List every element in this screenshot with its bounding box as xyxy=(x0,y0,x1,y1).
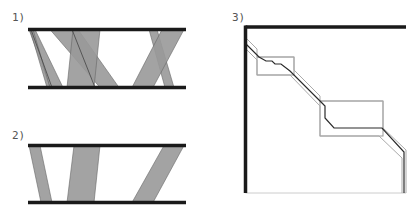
panel-1-synteny xyxy=(28,30,186,88)
band-lower-line xyxy=(246,49,402,193)
synteny-band xyxy=(67,146,100,203)
synteny-band xyxy=(132,146,184,203)
alignment-path xyxy=(246,44,404,193)
synteny-band xyxy=(132,30,184,88)
panel-3-dotplot xyxy=(246,26,407,194)
panel-2-synteny xyxy=(28,146,186,203)
diagram-canvas xyxy=(0,0,414,208)
alignment-box xyxy=(320,101,383,136)
band-upper-line xyxy=(246,38,406,150)
synteny-band xyxy=(29,146,52,203)
